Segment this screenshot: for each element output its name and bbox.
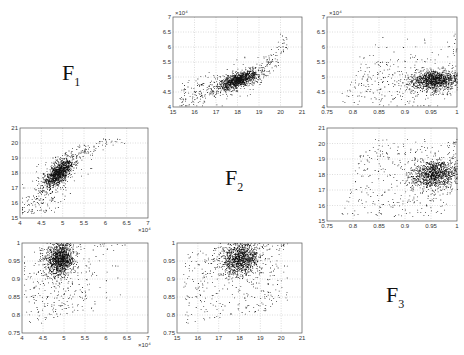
plots-layer: 1516171819202144.555.566.57×10⁴0.750.80.…	[0, 0, 464, 355]
x-tick-label: 7	[146, 335, 150, 341]
y-tick-label: 0.95	[163, 258, 175, 264]
x-tick-label: 6.5	[122, 220, 131, 226]
y-tick-label: 17	[318, 187, 325, 193]
y-tick-label: 5	[168, 74, 172, 80]
x-tick-label: 0.95	[425, 223, 437, 229]
y-scale-label: ×10⁴	[175, 10, 188, 16]
y-tick-label: 0.95	[8, 258, 20, 264]
y-tick-label: 15	[11, 215, 18, 221]
y-tick-label: 5.5	[163, 59, 172, 65]
x-tick-label: 5	[61, 220, 65, 226]
y-tick-label: 16	[318, 203, 325, 209]
y-tick-label: 0.75	[163, 330, 175, 336]
x-tick-label: 6.5	[123, 335, 132, 341]
x-tick-label: 4.5	[37, 220, 46, 226]
x-tick-label: 20	[278, 335, 285, 341]
panel-F1-vs-F3: 44.555.566.570.750.80.850.90.951×10⁴	[8, 240, 151, 348]
x-tick-label: 0.9	[401, 223, 410, 229]
y-scale-label: ×10⁴	[329, 10, 342, 16]
y-tick-label: 7	[322, 14, 326, 20]
y-tick-label: 6	[168, 44, 172, 50]
x-tick-label: 16	[194, 335, 201, 341]
y-tick-label: 19	[11, 155, 18, 161]
y-tick-label: 0.85	[163, 294, 175, 300]
x-tick-label: 20	[277, 109, 284, 115]
x-tick-label: 7	[146, 220, 150, 226]
y-tick-label: 20	[11, 140, 18, 146]
x-tick-label: 0.95	[425, 109, 437, 115]
y-tick-label: 4.5	[317, 89, 326, 95]
scatter-points	[183, 243, 288, 324]
y-tick-label: 6	[322, 44, 326, 50]
y-tick-label: 0.8	[12, 312, 21, 318]
x-tick-label: 18	[234, 109, 241, 115]
y-tick-label: 18	[318, 172, 325, 178]
x-tick-label: 1	[455, 223, 459, 229]
x-tick-label: 0.8	[349, 109, 358, 115]
y-tick-label: 18	[11, 170, 18, 176]
x-tick-label: 5	[62, 335, 66, 341]
y-tick-label: 0.9	[12, 276, 21, 282]
y-tick-label: 0.75	[8, 330, 20, 336]
x-tick-label: 19	[256, 109, 263, 115]
x-tick-label: 17	[215, 335, 222, 341]
panel-F1-vs-F2: 44.555.566.5715161718192021×10⁴	[11, 125, 151, 233]
scatter-points	[342, 34, 458, 107]
x-scale-label: ×10⁴	[138, 227, 151, 233]
y-tick-label: 15	[318, 218, 325, 224]
scatter-points	[22, 139, 125, 215]
panel-F3-vs-F2: 0.750.80.850.90.95115161718192021	[318, 125, 459, 229]
x-tick-label: 0.85	[373, 223, 385, 229]
x-tick-label: 4.5	[39, 335, 48, 341]
y-tick-label: 20	[318, 141, 325, 147]
scatter-points	[24, 243, 125, 324]
y-tick-label: 7	[168, 14, 172, 20]
x-tick-label: 17	[213, 109, 220, 115]
y-tick-label: 0.8	[167, 312, 176, 318]
panel-F2-vs-F3: 151617181920210.750.80.850.90.951	[163, 240, 306, 341]
y-tick-label: 1	[17, 240, 21, 246]
y-tick-label: 6.5	[317, 29, 326, 35]
x-tick-label: 16	[191, 109, 198, 115]
y-tick-label: 1	[172, 240, 176, 246]
y-tick-label: 0.9	[167, 276, 176, 282]
x-tick-label: 0.8	[349, 223, 358, 229]
y-tick-label: 21	[11, 125, 18, 131]
x-tick-label: 19	[257, 335, 264, 341]
x-tick-label: 0.9	[401, 109, 410, 115]
x-tick-label: 4	[18, 220, 22, 226]
panel-F3-vs-F1: 0.750.80.850.90.95144.555.566.57×10⁴	[317, 10, 460, 115]
panel-F2-vs-F1: 1516171819202144.555.566.57×10⁴	[163, 10, 306, 115]
x-tick-label: 5.5	[81, 335, 90, 341]
scatter-points	[180, 34, 288, 107]
y-tick-label: 19	[318, 156, 325, 162]
y-tick-label: 5	[322, 74, 326, 80]
y-tick-label: 21	[318, 125, 325, 131]
y-tick-label: 5.5	[317, 59, 326, 65]
x-tick-label: 21	[299, 335, 306, 341]
x-tick-label: 0.85	[373, 109, 385, 115]
y-tick-label: 0.85	[8, 294, 20, 300]
x-tick-label: 1	[455, 109, 459, 115]
y-tick-label: 6.5	[163, 29, 172, 35]
x-scale-label: ×10⁴	[138, 342, 151, 348]
y-tick-label: 16	[11, 200, 18, 206]
y-tick-label: 17	[11, 185, 18, 191]
x-tick-label: 6	[104, 335, 108, 341]
x-tick-label: 21	[299, 109, 306, 115]
y-tick-label: 4.5	[163, 89, 172, 95]
x-tick-label: 5.5	[80, 220, 89, 226]
x-tick-label: 18	[236, 335, 243, 341]
x-tick-label: 4	[20, 335, 24, 341]
x-tick-label: 6	[104, 220, 108, 226]
